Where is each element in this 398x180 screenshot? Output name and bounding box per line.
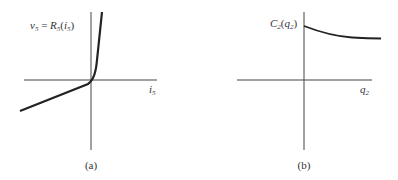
panel-a-y-label: v5 = R5(i5) xyxy=(30,19,75,33)
panel-a-x-label: i5 xyxy=(149,83,156,97)
panel-b-y-label: C2(q2) xyxy=(270,17,298,31)
panel-b-caption: (b) xyxy=(298,159,311,172)
panel-b-curve xyxy=(304,26,381,39)
panel-a-caption: (a) xyxy=(85,159,98,172)
panel-b: C2(q2) q2 (b) xyxy=(237,12,381,172)
panel-a: v5 = R5(i5) i5 (a) xyxy=(20,12,157,172)
figure: v5 = R5(i5) i5 (a) C2(q2) q2 (b) xyxy=(0,0,398,180)
panel-b-x-label: q2 xyxy=(360,83,370,97)
